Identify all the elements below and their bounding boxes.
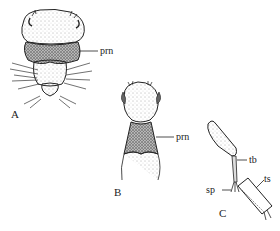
panel-b-drawing	[121, 81, 174, 180]
panel-a-drawing	[10, 9, 98, 108]
panel-c-drawing	[208, 121, 272, 220]
panel-label-c: C	[219, 208, 226, 219]
annotation-ts: ts	[264, 174, 271, 184]
annotation-prn-a: prn	[100, 46, 113, 56]
panel-label-a: A	[11, 109, 19, 120]
annotation-tb: tb	[249, 155, 257, 165]
illustration	[0, 0, 280, 231]
annotation-prn-b: prn	[176, 132, 189, 142]
annotation-sp: sp	[206, 185, 215, 195]
panel-label-b: B	[114, 187, 121, 198]
